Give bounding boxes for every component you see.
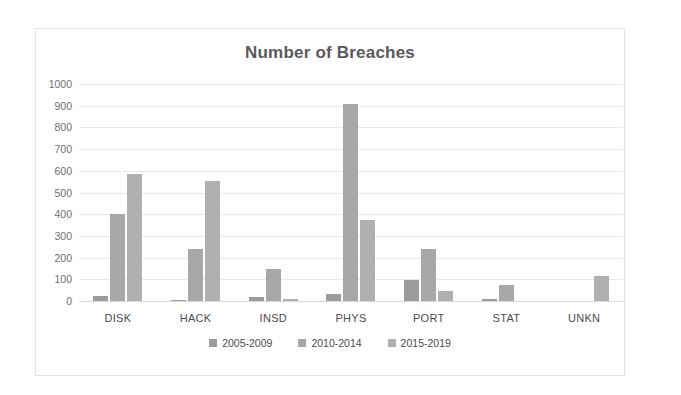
legend-label: 2015-2019 — [401, 337, 451, 349]
bar-disk-2015-2019[interactable] — [127, 174, 142, 301]
bar-unkn-2015-2019[interactable] — [594, 276, 609, 301]
legend-swatch-icon-2010-2014 — [298, 339, 306, 347]
y-tick-label-100: 100 — [54, 273, 72, 285]
legend-item-2005-2009[interactable]: 2005-2009 — [209, 337, 272, 349]
bar-phys-2005-2009[interactable] — [326, 294, 341, 301]
bar-stat-2005-2009[interactable] — [482, 299, 497, 301]
y-tick-label-500: 500 — [54, 187, 72, 199]
x-axis-label-hack: HACK — [157, 312, 235, 324]
bar-group-unkn: UNKN — [545, 84, 623, 301]
bar-group-hack: HACK — [157, 84, 235, 301]
y-tick-label-700: 700 — [54, 143, 72, 155]
y-tick-label-800: 800 — [54, 121, 72, 133]
y-tick-label-400: 400 — [54, 208, 72, 220]
bar-insd-2015-2019[interactable] — [283, 299, 298, 301]
bar-group-stat: STAT — [468, 84, 546, 301]
chart-legend: 2005-20092010-20142015-2019 — [36, 337, 624, 349]
legend-label: 2005-2009 — [222, 337, 272, 349]
bar-port-2015-2019[interactable] — [438, 291, 453, 301]
bar-hack-2005-2009[interactable] — [171, 300, 186, 301]
bar-disk-2010-2014[interactable] — [110, 214, 125, 301]
x-axis-label-disk: DISK — [79, 312, 157, 324]
legend-swatch-icon-2005-2009 — [209, 339, 217, 347]
bar-hack-2015-2019[interactable] — [205, 181, 220, 301]
bar-group-port: PORT — [390, 84, 468, 301]
legend-item-2015-2019[interactable]: 2015-2019 — [388, 337, 451, 349]
y-tick-label-0: 0 — [66, 295, 72, 307]
bar-group-insd: INSD — [234, 84, 312, 301]
y-tick-label-1000: 1000 — [49, 78, 72, 90]
chart-title: Number of Breaches — [36, 43, 624, 63]
x-axis-label-insd: INSD — [234, 312, 312, 324]
x-axis-label-phys: PHYS — [312, 312, 390, 324]
x-axis-label-stat: STAT — [468, 312, 546, 324]
x-axis-label-port: PORT — [390, 312, 468, 324]
legend-swatch-icon-2015-2019 — [388, 339, 396, 347]
chart-frame: Number of Breaches 100090080070060050040… — [35, 28, 625, 376]
bar-port-2010-2014[interactable] — [421, 249, 436, 301]
y-tick-label-900: 900 — [54, 100, 72, 112]
bar-hack-2010-2014[interactable] — [188, 249, 203, 301]
y-tick-label-200: 200 — [54, 252, 72, 264]
legend-label: 2010-2014 — [311, 337, 361, 349]
bar-port-2005-2009[interactable] — [404, 280, 419, 301]
y-tick-label-600: 600 — [54, 165, 72, 177]
bar-group-disk: DISK — [79, 84, 157, 301]
bar-insd-2010-2014[interactable] — [266, 269, 281, 301]
bar-phys-2010-2014[interactable] — [343, 104, 358, 301]
bar-insd-2005-2009[interactable] — [249, 297, 264, 301]
bar-disk-2005-2009[interactable] — [93, 296, 108, 301]
bar-group-phys: PHYS — [312, 84, 390, 301]
x-axis-label-unkn: UNKN — [545, 312, 623, 324]
y-tick-label-300: 300 — [54, 230, 72, 242]
legend-item-2010-2014[interactable]: 2010-2014 — [298, 337, 361, 349]
bar-stat-2010-2014[interactable] — [499, 285, 514, 301]
bar-phys-2015-2019[interactable] — [360, 220, 375, 301]
plot-area: 10009008007006005004003002001000 DISKHAC… — [79, 84, 623, 301]
gridline-0 — [79, 301, 623, 302]
